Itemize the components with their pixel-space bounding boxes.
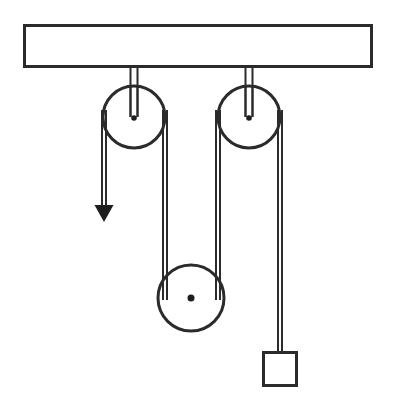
fixed-pulley-left-axle [131, 115, 137, 121]
fixed-pulley-right-axle [246, 115, 252, 121]
weight-block-group [264, 353, 297, 386]
pulley-system-canvas [0, 0, 395, 402]
fixed-pulley-right [218, 86, 280, 148]
pulleys-group [103, 86, 280, 331]
force-arrow-down-icon [95, 205, 114, 222]
pulley-diagram: Pulley system diagram [0, 0, 395, 402]
fixed-pulley-left [103, 86, 165, 148]
pulley-hangers-group [131, 68, 253, 117]
ceiling-beam-group [25, 26, 372, 67]
rope-left-to-movable [163, 110, 167, 300]
weight-block [264, 353, 297, 386]
ceiling-beam [25, 26, 372, 67]
movable-pulley-axle [188, 295, 195, 302]
rope-movable-to-right [216, 110, 220, 300]
rope-right-to-weight [278, 110, 282, 354]
